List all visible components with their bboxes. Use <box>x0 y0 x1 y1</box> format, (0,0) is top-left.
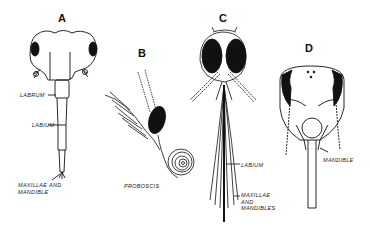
panel-c-letter: C <box>219 12 227 24</box>
panel-a-letter: A <box>58 12 66 24</box>
label-labium-a: LABIUM <box>32 122 54 129</box>
label-labrum: LABRUM <box>20 92 45 99</box>
panel-b-drawing <box>105 70 194 178</box>
panel-d-letter: D <box>305 42 313 54</box>
label-maxillae-mandible: MAXILLAE AND MANDIBLE <box>18 182 61 195</box>
panel-d-drawing <box>280 66 344 208</box>
mouthparts-figure <box>0 0 370 235</box>
panel-a-drawing <box>30 31 97 181</box>
label-maxillae-mandibles: MAXILLAE AND MANDIBLES <box>241 192 276 212</box>
label-mandible: MANDIBLE <box>323 157 354 164</box>
label-labium-c: LABIUM <box>241 162 263 169</box>
label-proboscis: PROBOSCIS <box>124 183 159 190</box>
panel-b-letter: B <box>138 47 146 59</box>
